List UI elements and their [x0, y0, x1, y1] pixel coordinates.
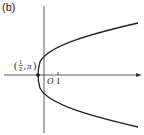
vertex-frac-num: 1 — [19, 59, 22, 65]
x-axis-arrow-icon — [136, 73, 142, 77]
vertex-label-comma: , — [24, 61, 26, 71]
vertex-angle: π — [27, 61, 32, 71]
vertex-point — [36, 73, 40, 77]
vertex-label-close: ) — [33, 60, 36, 72]
parabola-diagram: ( 1 2 , π ) O 1 — [0, 0, 144, 135]
tick-label-1: 1 — [56, 76, 61, 86]
vertex-frac-den: 2 — [19, 66, 22, 72]
vertex-label-open: ( — [14, 60, 18, 72]
origin-label: O — [47, 76, 54, 86]
